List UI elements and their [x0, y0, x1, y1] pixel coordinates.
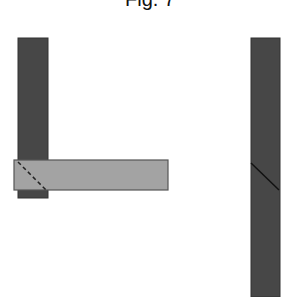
left-corner-joint — [14, 38, 168, 198]
figure-diagram — [0, 0, 300, 297]
left-horizontal-member — [14, 160, 168, 190]
right-straight-joint — [251, 38, 280, 297]
